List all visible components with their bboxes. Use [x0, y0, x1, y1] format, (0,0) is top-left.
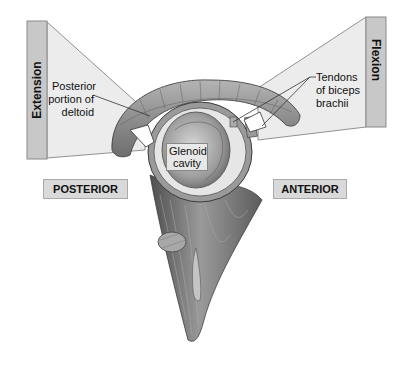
cut-muscle-end	[158, 232, 186, 252]
deltoid-label-line-2: portion of	[34, 93, 94, 106]
glenoid-label-line-1: Glenoid	[169, 145, 205, 157]
deltoid-label: Posterior portion of deltoid	[60, 80, 94, 119]
deltoid-label-line-1: Posterior	[52, 80, 94, 93]
shoulder-diagram: Extension Flexion Posterior portion of d…	[0, 0, 405, 377]
biceps-label-line-2: of biceps	[316, 84, 360, 97]
anterior-label: ANTERIOR	[273, 179, 347, 199]
posterior-label: POSTERIOR	[43, 179, 128, 199]
extension-label: Extension	[30, 61, 44, 118]
biceps-label-line-1: Tendons	[316, 71, 360, 84]
glenoid-label-line-2: cavity	[169, 157, 205, 169]
deltoid-label-line-3: deltoid	[60, 106, 94, 119]
biceps-label: Tendons of biceps brachii	[316, 71, 360, 110]
glenoid-cavity-label: Glenoid cavity	[166, 143, 208, 171]
biceps-label-line-3: brachii	[316, 97, 360, 110]
flexion-label: Flexion	[369, 39, 383, 81]
